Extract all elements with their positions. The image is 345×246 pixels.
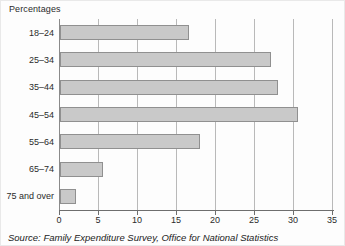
bar-65–74	[60, 162, 103, 177]
category-label-18–24: 18–24	[1, 28, 54, 39]
category-label-35–44: 35–44	[1, 82, 54, 93]
x-axis-tick-label-10: 10	[132, 215, 142, 225]
category-label-45–54: 45–54	[1, 110, 54, 121]
x-axis-tick-label-35: 35	[327, 215, 337, 225]
category-label-55–64: 55–64	[1, 137, 54, 148]
chart-page: Percentages 0510152025303518–2425–3435–4…	[0, 0, 345, 246]
x-axis-tick-label-30: 30	[288, 215, 298, 225]
gridline-x-35	[332, 19, 333, 210]
bar-45–54	[60, 107, 298, 122]
bar-55–64	[60, 134, 200, 149]
category-label-75-and-over: 75 and over	[1, 191, 54, 202]
bar-75-and-over	[60, 189, 76, 204]
x-axis-tick-label-5: 5	[95, 215, 100, 225]
bar-25–34	[60, 52, 271, 67]
x-axis-tick-label-25: 25	[249, 215, 259, 225]
source-note: Source: Family Expenditure Survey, Offic…	[8, 232, 278, 243]
category-label-25–34: 25–34	[1, 55, 54, 66]
bar-35–44	[60, 80, 278, 95]
bar-18–24	[60, 25, 189, 40]
x-axis-tick-label-0: 0	[56, 215, 61, 225]
bar-chart-plot-area: 0510152025303518–2425–3435–4445–5455–646…	[1, 1, 345, 246]
x-axis-tick-label-15: 15	[171, 215, 181, 225]
category-label-65–74: 65–74	[1, 164, 54, 175]
x-axis-tick-label-20: 20	[210, 215, 220, 225]
